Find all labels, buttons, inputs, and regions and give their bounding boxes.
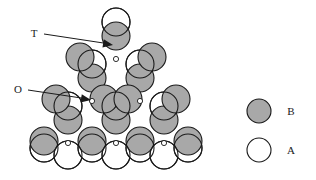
b-spheres-layer [30, 22, 202, 155]
leader-line-t [44, 34, 110, 44]
legend-swatch-a [247, 138, 271, 162]
legend-label-a: A [287, 144, 295, 156]
b-sphere [30, 127, 58, 155]
b-sphere [126, 127, 154, 155]
annotation-label-t: T [31, 27, 38, 39]
lattice-vertex-dot [113, 140, 118, 145]
lattice-vertex-dot [137, 98, 142, 103]
lattice-vertex-dot [65, 140, 70, 145]
lattice-vertex-dot [89, 98, 94, 103]
legend: BA [247, 99, 295, 162]
b-sphere [174, 127, 202, 155]
figure-canvas: TO BA [0, 0, 316, 180]
lattice-vertex-dot [113, 56, 118, 61]
sphere-packing-diagram: TO BA [0, 0, 316, 180]
legend-label-b: B [287, 105, 294, 117]
annotation-label-o: O [14, 83, 22, 95]
b-sphere [78, 127, 106, 155]
legend-swatch-b [247, 99, 271, 123]
lattice-vertex-dot [161, 140, 166, 145]
